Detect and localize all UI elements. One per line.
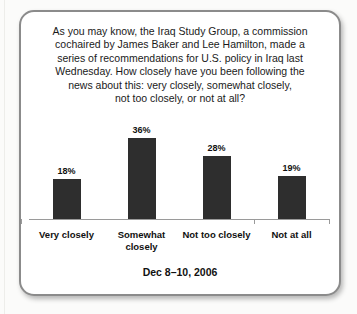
category-labels: Very closely Somewhat closely Not too cl… bbox=[29, 229, 329, 252]
poll-card: As you may know, the Iraq Study Group, a… bbox=[19, 10, 341, 296]
bar-group: 18% bbox=[29, 166, 104, 220]
bar bbox=[128, 138, 156, 219]
bar-value-label: 28% bbox=[207, 143, 225, 153]
question-line: As you may know, the Iraq Study Group, a… bbox=[21, 25, 339, 38]
axis-tick bbox=[254, 219, 255, 224]
bar-group: 28% bbox=[179, 143, 254, 219]
bar-value-label: 36% bbox=[132, 125, 150, 135]
category-label: Not too closely bbox=[179, 229, 254, 252]
axis-tick bbox=[21, 219, 22, 224]
category-label: Very closely bbox=[29, 229, 104, 252]
category-label: Somewhat closely bbox=[104, 229, 179, 252]
bar-group: 19% bbox=[254, 163, 329, 219]
bar-group: 36% bbox=[104, 125, 179, 219]
date-label: Dec 8–10, 2006 bbox=[21, 266, 339, 278]
question-text: As you may know, the Iraq Study Group, a… bbox=[21, 25, 339, 105]
page-edge-line bbox=[4, 0, 5, 314]
question-line: news about this: very closely, somewhat … bbox=[21, 79, 339, 92]
question-line: not too closely, or not at all? bbox=[21, 92, 339, 105]
bar-value-label: 18% bbox=[57, 166, 75, 176]
bar-value-label: 19% bbox=[282, 163, 300, 173]
question-line: series of recommendations for U.S. polic… bbox=[21, 52, 339, 65]
category-label: Not at all bbox=[254, 229, 329, 252]
bar-chart: 18% 36% 28% 19% bbox=[29, 112, 329, 219]
bar bbox=[278, 176, 306, 219]
question-line: cochaired by James Baker and Lee Hamilto… bbox=[21, 38, 339, 51]
bar bbox=[53, 179, 81, 220]
question-line: Wednesday. How closely have you been fol… bbox=[21, 65, 339, 78]
axis-tick bbox=[329, 219, 330, 224]
bar bbox=[203, 156, 231, 219]
x-axis bbox=[29, 219, 330, 220]
